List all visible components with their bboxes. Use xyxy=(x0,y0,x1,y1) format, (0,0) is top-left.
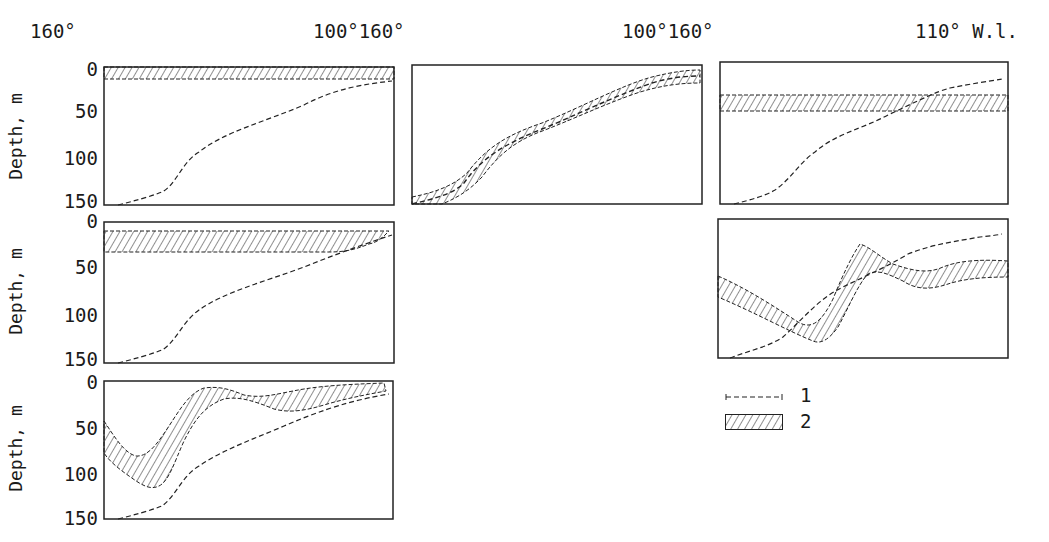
y-tick-150: 150 xyxy=(48,190,98,212)
legend: 1 2 xyxy=(725,384,845,444)
hatched-band xyxy=(412,70,700,204)
dashed-line xyxy=(118,235,392,363)
legend-dashed-line-icon xyxy=(725,392,783,402)
y-tick-150: 150 xyxy=(48,348,98,370)
legend-hatched-band-icon xyxy=(725,414,783,430)
y-tick-0: 0 xyxy=(48,371,98,393)
panel-row2-col3 xyxy=(718,219,1008,358)
legend-label-2: 2 xyxy=(800,410,811,432)
y-tick-50: 50 xyxy=(48,256,98,278)
panel-row1-col2 xyxy=(412,65,702,204)
y-tick-50: 50 xyxy=(48,100,98,122)
lon-label-110-wl: 110° W.l. xyxy=(915,20,1018,42)
y-tick-0: 0 xyxy=(48,210,98,232)
y-axis-label: Depth, m xyxy=(5,222,26,362)
panel-row2-col1 xyxy=(104,222,394,363)
y-axis-label: Depth, m xyxy=(5,379,26,519)
lon-label-100-160: 100°160° xyxy=(313,20,405,42)
lon-label-160: 160° xyxy=(30,20,76,42)
lon-label-100-160: 100°160° xyxy=(622,20,714,42)
panel-row3-col1 xyxy=(104,381,393,519)
y-axis-label: Depth, m xyxy=(5,67,26,207)
y-tick-50: 50 xyxy=(48,417,98,439)
dashed-line xyxy=(118,81,392,205)
panel-row1-col3 xyxy=(720,62,1008,204)
hatched-band xyxy=(718,244,1008,342)
y-tick-100: 100 xyxy=(48,463,98,485)
hatched-band xyxy=(104,231,389,252)
y-tick-150: 150 xyxy=(48,507,98,529)
panel-row1-col1 xyxy=(104,67,394,205)
y-tick-0: 0 xyxy=(48,58,98,80)
legend-label-1: 1 xyxy=(800,384,811,406)
y-tick-100: 100 xyxy=(48,304,98,326)
hatched-band xyxy=(104,383,386,488)
hatched-band xyxy=(104,67,394,79)
y-tick-100: 100 xyxy=(48,147,98,169)
hatched-band xyxy=(720,95,1008,111)
